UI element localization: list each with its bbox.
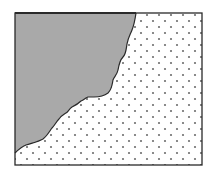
region-diagram [0, 0, 213, 171]
